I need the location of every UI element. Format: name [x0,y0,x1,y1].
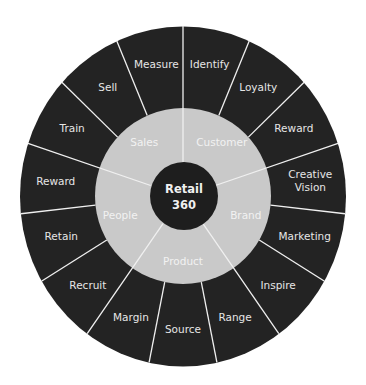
segment-label: CreativeVision [288,168,332,193]
segment-label: Sell [98,81,117,93]
segment-label: Recruit [69,279,106,291]
segment-label: Inspire [260,279,295,291]
retail-360-wheel: IdentifyLoyaltyRewardCreativeVisionMarke… [0,0,366,385]
segment-label: Source [165,323,201,335]
segment-label: Reward [36,175,75,187]
segment-label: Reward [274,122,313,134]
center-label-line2: 360 [172,198,196,212]
center-label-line1: Retail [165,182,203,196]
center-circle [150,162,218,230]
category-label-people: People [103,209,138,221]
segment-label: Marketing [279,230,331,242]
segment-label: Retain [45,230,78,242]
category-label-sales: Sales [130,136,158,148]
segment-label: Train [59,122,85,134]
segment-label: Measure [134,58,179,70]
segment-label: Margin [113,311,149,323]
segment-label: Identify [190,58,230,70]
category-label-brand: Brand [230,209,261,221]
segment-label: Range [218,311,251,323]
category-label-customer: Customer [196,136,248,148]
category-label-product: Product [163,255,203,267]
segment-label: Loyalty [239,81,277,93]
